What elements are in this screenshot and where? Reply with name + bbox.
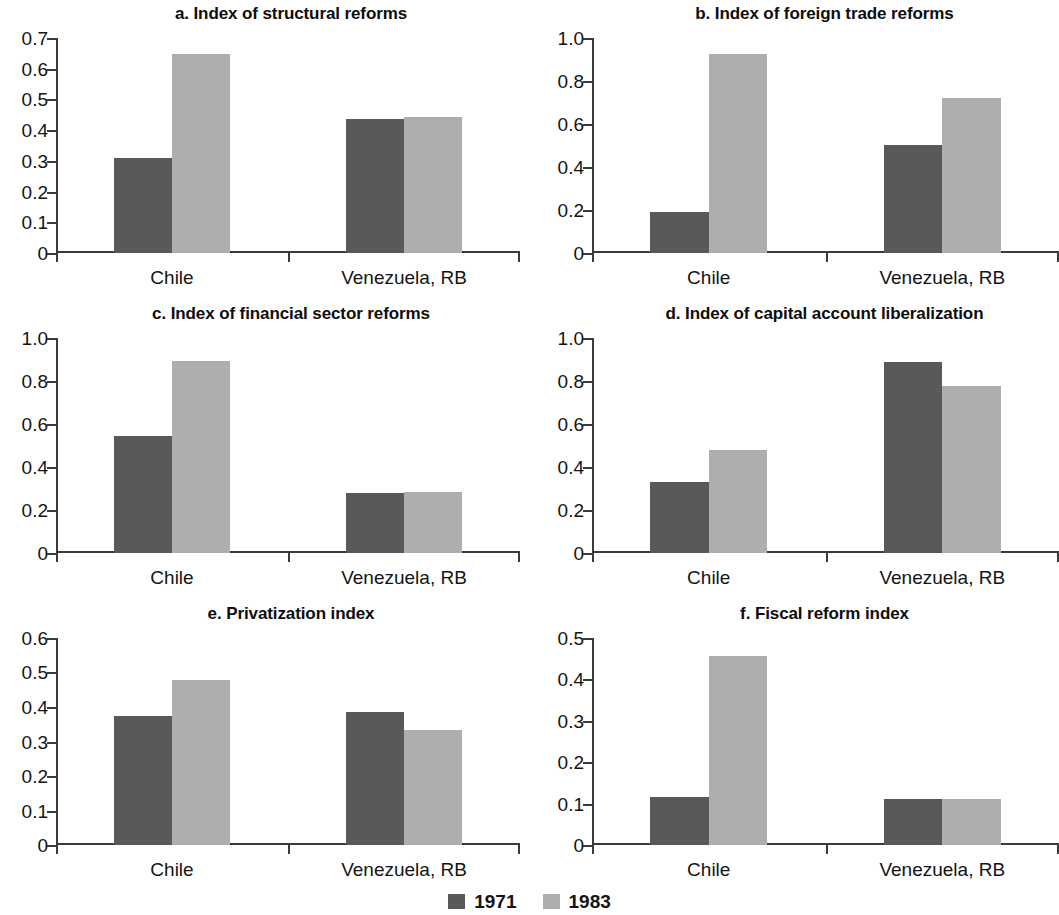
y-tick-label: 0.4 [22,697,48,716]
legend-swatch-1983-icon [543,894,560,909]
panel-d: d. Index of capital account liberalizati… [530,300,1059,600]
y-tick-label: 0.8 [22,372,48,391]
legend-label-1971: 1971 [474,892,516,911]
y-tick-label: 0.7 [22,29,48,48]
y-tick-label: 0.2 [22,182,48,201]
y-tick-mark [583,167,592,169]
multi-panel-bar-chart-figure: a. Index of structural reforms 00.10.20.… [0,0,1059,915]
y-tick-label: 0.4 [22,458,48,477]
y-tick-mark [47,510,56,512]
y-tick-mark [47,553,56,555]
panel-f: f. Fiscal reform index 00.10.20.30.40.5C… [530,600,1059,890]
bars-layer [56,638,520,845]
y-tick-mark [583,210,592,212]
y-tick-label: 0.1 [22,213,48,232]
x-axis-category-labels: ChileVenezuela, RB [592,253,1059,293]
panel-grid: a. Index of structural reforms 00.10.20.… [0,0,1059,890]
x-axis-category-label: Venezuela, RB [879,859,1005,881]
panel-a: a. Index of structural reforms 00.10.20.… [0,0,530,300]
y-tick-label: 0.3 [22,151,48,170]
bar-venezuela-rb-1971 [346,119,404,253]
y-tick-label: 0.1 [558,794,584,813]
bars-layer [56,338,520,553]
y-tick-label: 0.4 [558,670,584,689]
y-tick-label: 0.8 [558,72,584,91]
y-tick-label: 0.4 [558,458,584,477]
bar-chile-1971 [114,716,172,845]
x-axis-category-label: Chile [150,859,193,881]
y-axis-labels: 00.10.20.30.40.50.6 [0,638,48,845]
bar-chile-1983 [709,54,767,253]
bar-venezuela-rb-1983 [942,386,1000,553]
y-axis-labels: 00.20.40.60.81.0 [530,338,584,553]
y-tick-mark [47,424,56,426]
y-tick-mark [583,81,592,83]
y-tick-mark [47,381,56,383]
y-tick-mark [583,638,592,640]
y-tick-label: 0.3 [558,711,584,730]
y-axis-labels: 00.10.20.30.40.50.60.7 [0,38,48,253]
bar-venezuela-rb-1983 [404,117,462,253]
panel-d-title: d. Index of capital account liberalizati… [530,304,1059,324]
y-tick-label: 0.4 [558,158,584,177]
bar-chile-1971 [650,212,708,253]
bar-venezuela-rb-1971 [884,362,942,553]
panel-c: c. Index of financial sector reforms 00.… [0,300,530,600]
y-tick-label: 0.5 [558,629,584,648]
y-tick-mark [47,99,56,101]
y-tick-mark [583,253,592,255]
panel-b-plot: 00.20.40.60.81.0ChileVenezuela, RB [530,30,1059,300]
bar-venezuela-rb-1983 [404,492,462,553]
bar-chile-1983 [709,450,767,553]
panel-d-plot: 00.20.40.60.81.0ChileVenezuela, RB [530,330,1059,600]
y-tick-label: 0.2 [558,501,584,520]
y-tick-mark [583,553,592,555]
y-tick-mark [583,721,592,723]
y-tick-label: 0.2 [22,501,48,520]
x-axis-category-label: Chile [687,267,730,289]
y-tick-label: 0.2 [558,753,584,772]
x-axis-category-label: Venezuela, RB [341,267,467,289]
y-tick-mark [47,130,56,132]
chart-legend: 1971 1983 [0,888,1059,915]
x-axis-category-label: Venezuela, RB [879,567,1005,589]
y-tick-mark [47,222,56,224]
y-axis-labels: 00.10.20.30.40.5 [530,638,584,845]
y-tick-mark [583,804,592,806]
y-axis-labels: 00.20.40.60.81.0 [0,338,48,553]
y-tick-label: 1.0 [22,329,48,348]
y-tick-mark [583,124,592,126]
panel-b: b. Index of foreign trade reforms 00.20.… [530,0,1059,300]
panel-e-plot: 00.10.20.30.40.50.6ChileVenezuela, RB [0,630,530,890]
x-axis-category-label: Venezuela, RB [341,859,467,881]
x-axis-category-labels: ChileVenezuela, RB [56,253,520,293]
y-tick-mark [583,381,592,383]
panel-a-plot: 00.10.20.30.40.50.60.7ChileVenezuela, RB [0,30,530,300]
legend-item-1983: 1983 [543,892,611,911]
panel-c-axis-area: 00.20.40.60.81.0ChileVenezuela, RB [56,338,520,553]
y-tick-mark [47,845,56,847]
y-tick-mark [583,467,592,469]
bar-chile-1983 [172,361,230,553]
bar-venezuela-rb-1971 [346,712,404,845]
panel-f-axis-area: 00.10.20.30.40.5ChileVenezuela, RB [592,638,1059,845]
y-tick-mark [47,638,56,640]
y-tick-label: 0.2 [22,766,48,785]
x-axis-category-label: Venezuela, RB [879,267,1005,289]
bar-venezuela-rb-1983 [942,799,1000,845]
y-tick-label: 0.4 [22,121,48,140]
bar-venezuela-rb-1971 [884,145,942,253]
x-axis-category-label: Chile [687,567,730,589]
y-tick-mark [47,338,56,340]
y-tick-mark [47,253,56,255]
y-tick-label: 1.0 [558,329,584,348]
bar-chile-1983 [709,656,767,845]
y-tick-label: 0.5 [22,90,48,109]
bar-venezuela-rb-1983 [942,98,1000,253]
y-tick-mark [583,38,592,40]
y-tick-mark [583,679,592,681]
panel-e: e. Privatization index 00.10.20.30.40.50… [0,600,530,890]
x-axis-category-label: Chile [150,267,193,289]
y-tick-mark [583,845,592,847]
panel-e-title: e. Privatization index [0,604,556,624]
